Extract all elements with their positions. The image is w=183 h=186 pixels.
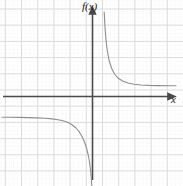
function-curves xyxy=(2,12,176,186)
curve-right-branch xyxy=(104,12,176,86)
function-graph-figure: f(x) x xyxy=(0,0,183,186)
grid-minor-lines xyxy=(0,0,183,186)
curve-left-branch xyxy=(2,117,92,186)
grid-major-lines xyxy=(0,0,183,186)
y-axis-label: f(x) xyxy=(82,1,97,12)
x-axis-label: x xyxy=(171,94,176,105)
plot-canvas xyxy=(0,0,183,186)
